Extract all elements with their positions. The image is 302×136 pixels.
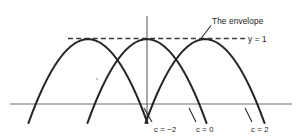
parabola-curve-c-minus-2 (29, 39, 148, 123)
curve-label-c-2: c = 2 (251, 125, 269, 134)
envelope-value-label: y = 1 (248, 35, 267, 44)
curve-label-c-minus-2: c = −2 (154, 125, 176, 134)
figure-canvas: The envelope y = 1 c = −2 c = 0 c = 2 (0, 0, 302, 136)
envelope-label: The envelope (212, 17, 264, 26)
scan-speck (96, 78, 98, 80)
leader-line-c-2 (245, 108, 252, 122)
envelope-parabolas-figure: The envelope y = 1 c = −2 c = 0 c = 2 (0, 0, 302, 136)
leader-line-c-0 (189, 108, 196, 122)
curve-label-c-0: c = 0 (196, 125, 214, 134)
